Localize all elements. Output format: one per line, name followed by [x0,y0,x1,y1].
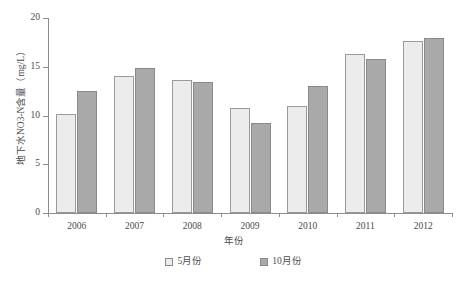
x-tick [163,213,164,217]
x-tick-label-2008: 2008 [169,221,215,232]
bar-2007-may [114,76,134,213]
light-gray-swatch [165,258,173,266]
chart-legend: 5月份10月份 [0,256,467,267]
bar-2007-oct [135,68,155,213]
legend-label: 10月份 [272,256,302,267]
x-tick-label-2011: 2011 [342,221,388,232]
x-tick-label-2012: 2012 [400,221,446,232]
bar-2008-may [172,80,192,213]
legend-item-october: 10月份 [260,256,302,267]
bar-2011-may [345,54,365,213]
y-tick-label: 0 [18,208,40,218]
dark-gray-swatch [260,258,268,266]
x-tick-label-2006: 2006 [54,221,100,232]
bar-2011-oct [366,59,386,213]
bar-2012-oct [424,38,444,214]
bar-2009-oct [251,123,271,213]
bar-2012-may [403,41,423,213]
x-tick [337,213,338,217]
x-axis-title: 年份 [0,236,467,247]
x-axis-line [48,213,452,214]
x-tick [221,213,222,217]
x-tick [106,213,107,217]
x-tick-label-2009: 2009 [227,221,273,232]
legend-item-may: 5月份 [165,256,202,267]
bar-2010-oct [308,86,328,213]
x-tick [279,213,280,217]
x-tick-label-2010: 2010 [285,221,331,232]
legend-label: 5月份 [177,256,202,267]
bar-chart: 05101520 2006200720082009201020112012 年份… [0,0,467,281]
bar-2010-may [287,106,307,213]
plot-area [48,18,452,213]
bar-2009-may [230,108,250,213]
x-tick-label-2007: 2007 [112,221,158,232]
bar-2006-may [56,114,76,213]
x-tick [394,213,395,217]
y-axis-title: 地下水NO3-N含量（mg/L） [16,11,27,201]
x-tick [452,213,453,217]
bar-2008-oct [193,82,213,213]
bar-2006-oct [77,91,97,213]
x-tick [48,213,49,217]
